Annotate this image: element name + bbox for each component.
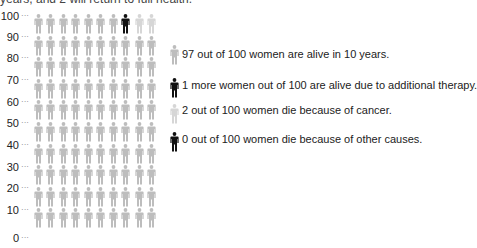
person-icon-alive <box>34 208 43 228</box>
person-icon-alive <box>84 187 93 207</box>
person-icon-alive <box>71 165 80 185</box>
y-tick-label: 90··· <box>0 31 34 43</box>
y-tick-label: 30··· <box>0 161 34 173</box>
person-icon-other <box>170 132 179 152</box>
person-icon-alive <box>109 122 118 142</box>
person-icon-alive <box>46 165 55 185</box>
person-icon-alive <box>71 187 80 207</box>
person-icon-alive <box>121 57 130 77</box>
y-tick-label: 10··· <box>0 204 34 216</box>
person-icon-alive <box>109 187 118 207</box>
person-icon-alive <box>135 100 144 120</box>
person-icon-alive <box>84 79 93 99</box>
person-icon-alive <box>34 100 43 120</box>
y-tick-value: 10 <box>0 204 19 216</box>
person-icon-alive <box>170 45 179 65</box>
person-icon-alive <box>96 165 105 185</box>
tick-dots: ··· <box>21 205 29 214</box>
person-icon-alive <box>96 36 105 56</box>
person-icon-alive <box>84 165 93 185</box>
person-icon-alive <box>34 187 43 207</box>
person-icon-alive <box>147 187 156 207</box>
person-icon-alive <box>96 79 105 99</box>
pictograph-row <box>32 144 160 165</box>
tick-dots: ··· <box>21 162 29 171</box>
person-icon-alive <box>84 144 93 164</box>
person-icon-alive <box>96 57 105 77</box>
person-icon-alive <box>34 57 43 77</box>
legend-label: 1 more women out of 100 are alive due to… <box>182 79 477 91</box>
person-icon-alive <box>71 208 80 228</box>
person-icon-alive <box>109 57 118 77</box>
person-icon-alive <box>59 79 68 99</box>
person-icon-alive <box>46 122 55 142</box>
person-icon-alive <box>59 144 68 164</box>
tick-dots: ··· <box>21 53 29 62</box>
tick-dots: ··· <box>21 118 29 127</box>
person-icon-alive <box>121 165 130 185</box>
person-icon-alive <box>34 144 43 164</box>
person-icon-alive <box>121 100 130 120</box>
person-icon-alive <box>109 79 118 99</box>
person-icon-alive <box>147 100 156 120</box>
person-icon-alive <box>46 36 55 56</box>
person-icon-alive <box>84 36 93 56</box>
tick-dots: ··· <box>21 233 29 242</box>
person-icon-alive <box>34 122 43 142</box>
y-tick-label: 20··· <box>0 182 34 194</box>
legend-label: 2 out of 100 women die because of cancer… <box>182 104 392 116</box>
person-icon-alive <box>121 36 130 56</box>
legend-label: 0 out of 100 women die because of other … <box>182 133 422 145</box>
y-tick-value: 80 <box>0 52 19 64</box>
pictograph-row <box>32 36 160 57</box>
y-tick-label: 0··· <box>0 232 34 244</box>
person-icon-alive <box>96 122 105 142</box>
person-icon-alive <box>109 144 118 164</box>
tick-dots: ··· <box>21 11 29 20</box>
person-icon-alive <box>135 187 144 207</box>
person-icon-alive <box>46 208 55 228</box>
person-icon-alive <box>46 57 55 77</box>
y-tick-label: 40··· <box>0 139 34 151</box>
pictograph-row <box>32 79 160 100</box>
person-icon-alive <box>121 122 130 142</box>
person-icon-alive <box>84 57 93 77</box>
pictograph-row <box>32 165 160 186</box>
person-icon-alive <box>147 144 156 164</box>
person-icon-alive <box>59 208 68 228</box>
person-icon-alive <box>34 165 43 185</box>
y-tick-value: 30 <box>0 161 19 173</box>
pictograph-row <box>32 100 160 121</box>
person-icon-alive <box>135 36 144 56</box>
tick-dots: ··· <box>21 183 29 192</box>
y-tick-label: 100··· <box>0 10 34 22</box>
y-tick-value: 100 <box>0 10 19 22</box>
person-icon-cancer <box>135 14 144 34</box>
person-icon-alive <box>34 36 43 56</box>
person-icon-alive <box>71 144 80 164</box>
y-tick-label: 70··· <box>0 74 34 86</box>
person-icon-alive <box>46 187 55 207</box>
person-icon-alive <box>34 14 43 34</box>
person-icon-alive <box>59 165 68 185</box>
person-icon-therapy <box>121 14 130 34</box>
y-tick-label: 60··· <box>0 96 34 108</box>
person-icon-alive <box>71 79 80 99</box>
y-tick-value: 60 <box>0 96 19 108</box>
pictograph-row <box>32 187 160 208</box>
person-icon-alive <box>59 36 68 56</box>
person-icon-alive <box>135 122 144 142</box>
y-tick-value: 20 <box>0 182 19 194</box>
tick-dots: ··· <box>21 32 29 41</box>
person-icon-cancer <box>147 14 156 34</box>
y-tick-label: 80··· <box>0 52 34 64</box>
person-icon-therapy <box>170 78 179 98</box>
person-icon-alive <box>71 36 80 56</box>
person-icon-alive <box>84 100 93 120</box>
legend-label: 97 out of 100 women are alive in 10 year… <box>182 48 389 60</box>
clipped-caption: years, and 2 will return to full health. <box>0 0 192 6</box>
person-icon-alive <box>135 79 144 99</box>
person-icon-alive <box>109 165 118 185</box>
person-icon-cancer <box>170 104 179 124</box>
person-icon-alive <box>109 36 118 56</box>
